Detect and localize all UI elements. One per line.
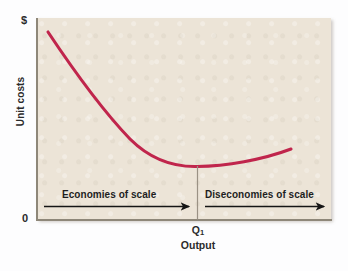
x-axis-line <box>36 219 332 221</box>
y-axis-title: Unit costs <box>15 62 26 142</box>
y-axis-top-label: $ <box>21 15 27 26</box>
economies-of-scale-figure: $ 0 Unit costs Economies of scale Diseco… <box>0 0 348 271</box>
x-axis-marker-label: Q1 <box>178 224 218 236</box>
diseconomies-of-scale-label: Diseconomies of scale <box>205 189 314 200</box>
economies-of-scale-label: Economies of scale <box>62 189 156 200</box>
y-axis-line <box>36 18 38 221</box>
y-axis-origin-label: 0 <box>22 213 28 224</box>
x-axis-marker-text: Q <box>192 224 200 236</box>
x-axis-title: Output <box>165 239 231 251</box>
x-axis-marker-subscript: 1 <box>200 228 204 237</box>
